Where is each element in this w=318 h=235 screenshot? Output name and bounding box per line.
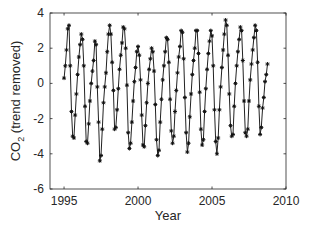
- asterisk-marker: [254, 29, 258, 33]
- asterisk-marker: [102, 101, 106, 105]
- asterisk-marker: [78, 43, 82, 47]
- x-axis-label: Year: [155, 208, 182, 223]
- asterisk-marker: [195, 29, 199, 33]
- co2-chart: -6-4-2024 1995200020052010 Year CO2 (tre…: [0, 0, 318, 235]
- plot-area: -6-4-2024 1995200020052010: [33, 6, 299, 208]
- asterisk-marker: [185, 150, 189, 154]
- asterisk-marker: [208, 39, 212, 43]
- asterisk-marker: [215, 152, 219, 156]
- asterisk-marker: [143, 124, 147, 128]
- asterisk-marker: [245, 134, 249, 138]
- asterisk-marker: [118, 67, 122, 71]
- asterisk-marker: [156, 154, 160, 158]
- asterisk-marker: [242, 99, 246, 103]
- asterisk-marker: [73, 113, 77, 117]
- asterisk-marker: [189, 92, 193, 96]
- asterisk-marker: [184, 131, 188, 135]
- y-tick-label: 4: [37, 6, 44, 20]
- asterisk-marker: [100, 127, 104, 131]
- asterisk-marker: [253, 23, 257, 27]
- asterisk-marker: [247, 99, 251, 103]
- asterisk-marker: [249, 62, 253, 66]
- asterisk-marker: [199, 127, 203, 131]
- asterisk-marker: [93, 39, 97, 43]
- asterisk-marker: [131, 99, 135, 103]
- asterisk-marker: [243, 131, 247, 135]
- asterisk-marker: [88, 99, 92, 103]
- asterisk-marker: [258, 132, 262, 136]
- asterisk-marker: [146, 81, 150, 85]
- asterisk-marker: [232, 104, 236, 108]
- asterisk-marker: [77, 55, 81, 59]
- asterisk-marker: [90, 69, 94, 73]
- asterisk-marker: [257, 104, 261, 108]
- asterisk-marker: [140, 113, 144, 117]
- asterisk-marker: [127, 147, 131, 151]
- asterisk-marker: [177, 55, 181, 59]
- asterisk-marker: [116, 87, 120, 91]
- asterisk-marker: [265, 62, 269, 66]
- x-tick-label: 1995: [51, 194, 78, 208]
- x-tick-label: 2010: [273, 194, 300, 208]
- asterisk-marker: [261, 106, 265, 110]
- asterisk-marker: [108, 23, 112, 27]
- asterisk-marker: [205, 67, 209, 71]
- asterisk-marker: [264, 73, 268, 77]
- asterisk-marker: [155, 138, 159, 142]
- y-tick-label: -6: [33, 182, 44, 196]
- asterisk-marker: [168, 97, 172, 101]
- asterisk-marker: [159, 97, 163, 101]
- asterisk-marker: [142, 145, 146, 149]
- asterisk-marker: [172, 134, 176, 138]
- asterisk-marker: [114, 125, 118, 129]
- asterisk-marker: [246, 127, 250, 131]
- asterisk-marker: [85, 141, 89, 145]
- asterisk-marker: [209, 29, 213, 33]
- asterisk-marker: [76, 73, 80, 77]
- asterisk-marker: [145, 101, 149, 105]
- asterisk-marker: [204, 87, 208, 91]
- asterisk-marker: [229, 124, 233, 128]
- y-tick-label: 2: [37, 41, 44, 55]
- asterisk-marker: [201, 138, 205, 142]
- y-tick-label: -4: [33, 147, 44, 161]
- asterisk-marker: [231, 132, 235, 136]
- asterisk-marker: [225, 23, 229, 27]
- asterisk-marker: [259, 125, 263, 129]
- asterisk-marker: [171, 141, 175, 145]
- asterisk-marker: [103, 85, 107, 89]
- asterisk-marker: [227, 92, 231, 96]
- asterisk-marker: [74, 92, 78, 96]
- asterisk-marker: [216, 136, 220, 140]
- asterisk-marker: [200, 143, 204, 147]
- y-axis-label: CO2 (trend removed): [8, 41, 26, 162]
- asterisk-marker: [240, 29, 244, 33]
- asterisk-marker: [190, 73, 194, 77]
- asterisk-marker: [129, 141, 133, 145]
- x-tick-label: 2005: [199, 194, 226, 208]
- y-tick-label: -2: [33, 112, 44, 126]
- asterisk-marker: [169, 129, 173, 133]
- y-tick-label: 0: [37, 76, 44, 90]
- x-tick-label: 2000: [125, 194, 152, 208]
- asterisk-marker: [72, 136, 76, 140]
- asterisk-marker: [238, 25, 242, 29]
- asterisk-marker: [219, 85, 223, 89]
- asterisk-marker: [157, 148, 161, 152]
- asterisk-marker: [152, 69, 156, 73]
- asterisk-marker: [233, 81, 237, 85]
- asterisk-marker: [224, 18, 228, 22]
- asterisk-marker: [214, 139, 218, 143]
- asterisk-marker: [147, 67, 151, 71]
- asterisk-marker: [263, 80, 267, 84]
- asterisk-marker: [187, 141, 191, 145]
- asterisk-marker: [89, 81, 93, 85]
- asterisk-marker: [132, 80, 136, 84]
